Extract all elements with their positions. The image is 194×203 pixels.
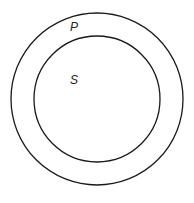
label-s: S: [70, 73, 78, 87]
outer-circle-p: [11, 13, 183, 185]
inner-circle-s: [34, 36, 160, 162]
label-p: P: [70, 20, 78, 34]
venn-diagram: P S: [0, 0, 194, 203]
